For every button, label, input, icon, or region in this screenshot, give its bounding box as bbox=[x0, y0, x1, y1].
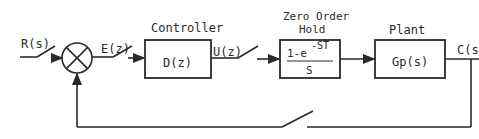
summing-junction-icon bbox=[62, 43, 92, 73]
zoh-title-line1: Zero Order bbox=[283, 10, 350, 23]
block-diagram: R(s) E(z) Controller D(z) U(z) Zero Orde… bbox=[0, 0, 479, 139]
zoh-title-line2: Hold bbox=[299, 23, 326, 36]
controller-title: Controller bbox=[151, 21, 223, 35]
plant-title: Plant bbox=[389, 23, 425, 37]
zoh-exponent: -ST bbox=[311, 40, 329, 51]
input-label: R(s) bbox=[21, 37, 50, 51]
zoh-numerator: 1-e bbox=[287, 47, 307, 60]
feedback-sampler-switch-icon bbox=[282, 111, 313, 127]
control-signal-label: U(z) bbox=[213, 45, 242, 59]
zoh-denominator: S bbox=[306, 64, 313, 77]
plant-transfer-function: Gp(s) bbox=[392, 55, 428, 69]
output-label: C(s bbox=[457, 43, 479, 57]
controller-transfer-function: D(z) bbox=[163, 56, 192, 70]
